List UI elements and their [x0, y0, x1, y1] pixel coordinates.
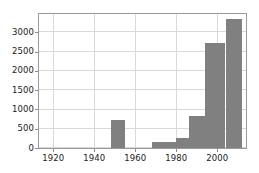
- x-tick-label: 2000: [197, 154, 237, 163]
- x-axis-tick-labels: 19201940196019802000: [0, 0, 259, 173]
- x-tick-label: 1920: [33, 154, 73, 163]
- histogram-figure: 050010001500200025003000 192019401960198…: [0, 0, 259, 173]
- x-tick-label: 1960: [115, 154, 155, 163]
- x-tick-label: 1980: [156, 154, 196, 163]
- x-tick-label: 1940: [74, 154, 114, 163]
